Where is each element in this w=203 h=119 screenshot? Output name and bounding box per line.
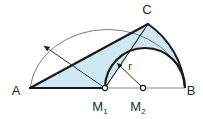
center-marker-m2 bbox=[140, 85, 145, 90]
center-marker-m1 bbox=[102, 85, 107, 90]
geometry-figure: A B C M1 M2 r bbox=[0, 0, 203, 119]
point-label-m1-base: M bbox=[92, 99, 103, 114]
point-label-a: A bbox=[12, 83, 21, 98]
point-label-b: B bbox=[187, 83, 196, 98]
point-label-c: C bbox=[142, 2, 151, 17]
point-label-m2-base: M bbox=[130, 99, 141, 114]
radius-label-r: r bbox=[128, 60, 132, 72]
point-label-m1-subscript: 1 bbox=[103, 107, 108, 116]
point-label-m2-subscript: 2 bbox=[141, 107, 146, 116]
